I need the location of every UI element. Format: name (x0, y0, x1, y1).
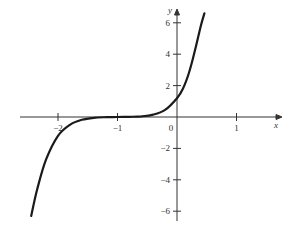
x-axis-label: x (273, 120, 278, 130)
x-tick-label: −1 (113, 123, 123, 133)
y-tick-label: −6 (160, 206, 170, 216)
x-tick-label: 0 (169, 123, 174, 133)
y-axis-arrow-icon (175, 9, 180, 15)
y-tick-label: 4 (166, 49, 171, 59)
x-axis-arrow-icon (276, 115, 282, 120)
y-tick-label: −2 (160, 143, 170, 153)
y-tick-label: 2 (166, 81, 171, 91)
x-tick-label: 1 (234, 123, 239, 133)
y-axis-label: y (167, 5, 172, 15)
function-graph: −2−101−6−4−2246xy (0, 0, 292, 230)
y-tick-label: −4 (160, 175, 170, 185)
y-tick-label: 6 (166, 18, 171, 28)
